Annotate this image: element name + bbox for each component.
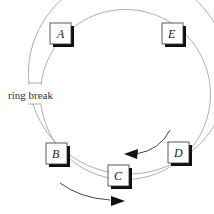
node-D: D: [168, 142, 192, 166]
node-C: C: [108, 165, 132, 189]
node-label-D: D: [173, 146, 183, 160]
node-A: A: [50, 23, 74, 47]
node-label-E: E: [167, 27, 176, 41]
node-B: B: [46, 143, 70, 167]
outer-flow-arrow: [60, 183, 110, 200]
node-label-A: A: [56, 27, 65, 41]
ring-break-label: ring break: [8, 89, 53, 101]
inner-arrowhead: [124, 149, 138, 159]
node-label-B: B: [52, 147, 60, 161]
inner-flow-arrow: [136, 130, 170, 154]
node-label-C: C: [114, 169, 123, 183]
ring-svg: ring break A E B C D: [0, 0, 214, 214]
ring-diagram: ring break A E B C D: [0, 0, 214, 214]
node-E: E: [162, 23, 186, 47]
outer-arrowhead: [111, 196, 125, 206]
